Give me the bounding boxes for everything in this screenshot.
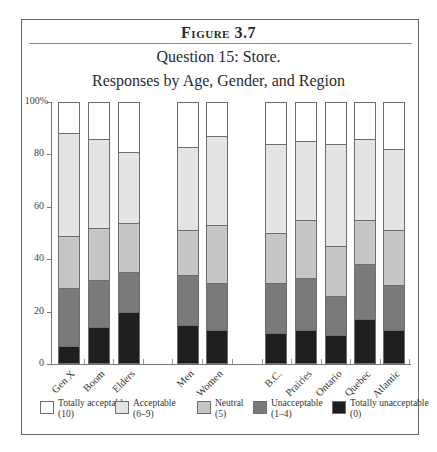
legend-label-range: (0) — [350, 409, 429, 420]
bar-segment — [354, 319, 376, 364]
bar-segment — [206, 330, 228, 364]
x-tick — [172, 359, 173, 364]
bar-segment — [177, 147, 199, 231]
bar-segment — [325, 246, 347, 296]
bar-boom — [88, 102, 110, 364]
bar-segment — [88, 280, 110, 327]
y-tick — [47, 154, 51, 155]
bar-segment — [118, 312, 140, 364]
x-tick — [202, 359, 203, 364]
y-tick — [47, 312, 51, 313]
bar-segment — [383, 102, 405, 149]
bar-segment — [325, 296, 347, 335]
title-divider — [29, 43, 412, 44]
legend-label-text: Neutral — [215, 398, 244, 409]
x-tick — [84, 359, 85, 364]
bar-segment — [265, 283, 287, 333]
x-tick — [321, 359, 322, 364]
bar-segment — [58, 133, 80, 235]
y-tick-label: 20 — [14, 305, 44, 316]
bar-segment — [118, 152, 140, 223]
legend-item-unacceptable: Unacceptable(1–4) — [253, 398, 323, 420]
legend-label-range: (1–4) — [271, 409, 323, 420]
bar-b-c — [265, 102, 287, 364]
y-tick — [47, 259, 51, 260]
bar-segment — [354, 220, 376, 265]
legend-item-neutral: Neutral(5) — [197, 398, 244, 420]
x-tick — [380, 359, 381, 364]
bar-atlantic — [383, 102, 405, 364]
bar-segment — [88, 228, 110, 280]
x-tick — [409, 359, 410, 364]
legend-label-text: Unacceptable — [271, 398, 323, 409]
y-tick-label: 0 — [14, 357, 44, 368]
y-tick-label: 40 — [14, 252, 44, 263]
bar-quebec — [354, 102, 376, 364]
bar-gen-x — [58, 102, 80, 364]
bar-segment — [88, 102, 110, 139]
bar-segment — [265, 233, 287, 283]
y-tick — [47, 364, 51, 365]
bar-segment — [265, 102, 287, 144]
bar-segment — [295, 102, 317, 141]
bar-segment — [206, 136, 228, 225]
figure-label: Figure 3.7 — [0, 24, 437, 42]
legend-item-totally-unacceptable: Totally unacceptable(0) — [332, 398, 429, 420]
x-tick — [143, 359, 144, 364]
y-tick-label: 60 — [14, 200, 44, 211]
bar-segment — [265, 333, 287, 364]
bar-segment — [206, 102, 228, 136]
legend-label: Neutral(5) — [215, 398, 244, 420]
bar-segment — [177, 325, 199, 364]
bar-segment — [354, 102, 376, 139]
legend-swatch — [197, 401, 211, 414]
bar-segment — [295, 330, 317, 364]
bar-segment — [354, 139, 376, 220]
x-tick — [291, 359, 292, 364]
bar-segment — [265, 144, 287, 233]
y-tick-label: 100% — [18, 95, 48, 106]
bar-segment — [177, 102, 199, 147]
legend-label: Totally unacceptable(0) — [350, 398, 429, 420]
y-tick-label: 80 — [14, 147, 44, 158]
bar-segment — [295, 278, 317, 330]
y-axis — [51, 102, 52, 364]
chart-title: Question 15: Store. — [0, 48, 437, 66]
x-tick — [232, 359, 233, 364]
legend-swatch — [332, 401, 346, 414]
legend-label-text: Totally unacceptable — [350, 398, 429, 409]
x-tick — [350, 359, 351, 364]
bar-ontario — [325, 102, 347, 364]
bar-segment — [383, 330, 405, 364]
legend-item-acceptable: Acceptable(6–9) — [115, 398, 176, 420]
legend-label-range: (5) — [215, 409, 244, 420]
x-tick — [113, 359, 114, 364]
legend-label-range: (6–9) — [133, 409, 176, 420]
legend: Totally acceptable(10)Acceptable(6–9)Neu… — [0, 398, 437, 428]
bar-segment — [118, 223, 140, 273]
bar-segment — [206, 283, 228, 330]
bar-segment — [118, 272, 140, 311]
legend-label: Unacceptable(1–4) — [271, 398, 323, 420]
chart-subtitle: Responses by Age, Gender, and Region — [0, 72, 437, 90]
bar-segment — [58, 102, 80, 133]
bar-elders — [118, 102, 140, 364]
bar-segment — [325, 144, 347, 246]
bar-segment — [88, 139, 110, 228]
legend-swatch — [115, 401, 129, 414]
bar-segment — [88, 327, 110, 364]
bar-segment — [206, 225, 228, 283]
bar-segment — [295, 220, 317, 278]
bar-segment — [325, 102, 347, 144]
legend-label-text: Acceptable — [133, 398, 176, 409]
bar-segment — [58, 346, 80, 364]
bar-segment — [177, 230, 199, 275]
x-axis — [51, 364, 411, 365]
bar-segment — [354, 264, 376, 319]
bar-women — [206, 102, 228, 364]
x-tick — [262, 359, 263, 364]
bar-segment — [177, 275, 199, 325]
bar-segment — [325, 335, 347, 364]
bar-segment — [383, 285, 405, 330]
legend-swatch — [253, 401, 267, 414]
